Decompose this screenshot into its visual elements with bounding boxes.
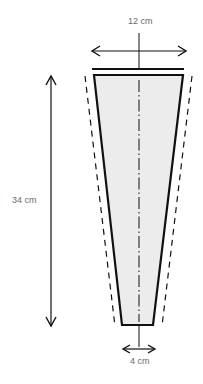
top-width-label: 12 cm bbox=[128, 16, 153, 26]
height-label: 34 cm bbox=[12, 195, 37, 205]
bottom-width-label: 4 cm bbox=[130, 356, 150, 366]
diagram-canvas bbox=[0, 0, 203, 384]
